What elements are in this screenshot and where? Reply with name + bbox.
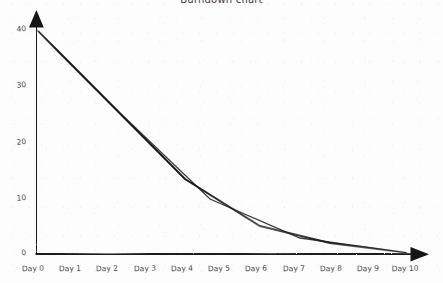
- y-tick-label-10: 10: [4, 193, 27, 204]
- y-axis-line: [36, 22, 37, 254]
- y-axis-arrow-icon: [29, 10, 44, 28]
- x-tick-label-day-2: Day 2: [87, 263, 127, 273]
- burndown-ideal-line: [38, 31, 409, 254]
- x-tick-label-day-7: Day 7: [274, 263, 314, 273]
- y-tick-label-30: 30: [4, 80, 27, 91]
- chart-plot-area: [0, 0, 443, 283]
- y-tick-label-0: 0: [4, 248, 27, 259]
- x-axis-arrow-icon: [411, 247, 430, 262]
- x-axis-line: [37, 254, 415, 255]
- x-tick-label-day-0: Day 0: [13, 263, 53, 273]
- burndown-chart-canvas: Burndown chart: [0, 0, 443, 283]
- x-tick-label-day-4: Day 4: [162, 263, 202, 273]
- x-tick-label-day-8: Day 8: [311, 263, 351, 273]
- x-tick-label-day-3: Day 3: [125, 263, 165, 273]
- x-tick-label-day-10: Day 10: [385, 263, 425, 273]
- x-tick-label-day-5: Day 5: [199, 263, 239, 273]
- x-tick-label-day-9: Day 9: [348, 263, 388, 273]
- x-tick-label-day-6: Day 6: [236, 263, 276, 273]
- y-tick-label-40: 40: [4, 24, 27, 35]
- x-tick-label-day-1: Day 1: [50, 263, 90, 273]
- y-tick-label-20: 20: [4, 137, 27, 148]
